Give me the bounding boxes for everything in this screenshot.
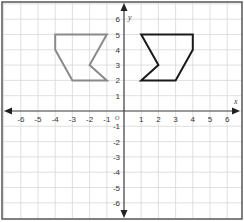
y-axis-label: y	[127, 13, 132, 22]
x-tick-label: -3	[69, 115, 77, 124]
y-tick-label: 1	[116, 92, 121, 101]
x-axis-label: x	[233, 97, 238, 106]
y-tick-label: -6	[113, 199, 121, 208]
y-tick-label: -5	[113, 184, 121, 193]
x-tick-label: 3	[173, 115, 178, 124]
y-tick-label: 5	[116, 31, 121, 40]
x-tick-label: 4	[191, 115, 196, 124]
x-tick-label: 1	[139, 115, 144, 124]
y-tick-label: -3	[113, 153, 121, 162]
x-tick-label: 6	[225, 115, 230, 124]
y-tick-label: -4	[113, 168, 121, 177]
x-tick-label: 2	[156, 115, 161, 124]
x-tick-label: -4	[52, 115, 60, 124]
y-tick-label: -2	[113, 138, 121, 147]
origin-label: O	[115, 115, 120, 121]
y-tick-label: -1	[113, 122, 121, 131]
x-tick-label: -2	[86, 115, 94, 124]
x-tick-label: -1	[103, 115, 111, 124]
x-tick-label: -6	[17, 115, 25, 124]
y-tick-label: 4	[116, 46, 121, 55]
coordinate-plane: -6-5-4-3-2-1123456654321-1-2-3-4-5-6 x y…	[0, 0, 244, 222]
x-tick-label: 5	[208, 115, 213, 124]
x-tick-label: -5	[34, 115, 42, 124]
y-tick-label: 6	[116, 15, 121, 24]
y-tick-label: 3	[116, 61, 121, 70]
y-tick-label: 2	[116, 76, 121, 85]
